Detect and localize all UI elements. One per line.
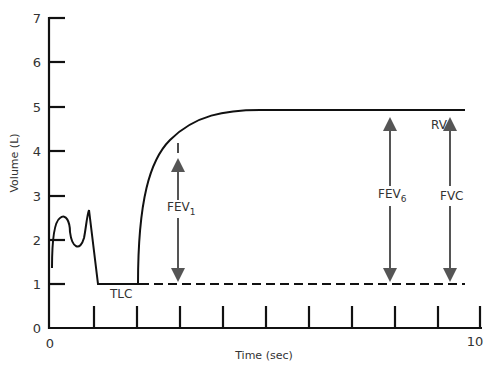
fev6-label: FEV6 — [378, 187, 407, 204]
tlc-label: TLC — [109, 287, 132, 301]
y-tick-2: 2 — [33, 233, 41, 248]
y-axis — [49, 17, 65, 329]
y-tick-0: 0 — [33, 321, 41, 336]
x-axis-title: Time (sec) — [234, 349, 293, 362]
y-axis-title: Volume (L) — [8, 133, 21, 192]
rv-label: RV — [431, 118, 448, 132]
fev1-label: FEV1 — [167, 200, 195, 217]
forced-expiration-curve — [138, 110, 465, 284]
tidal-breathing-curve — [52, 210, 140, 284]
x-tick-10: 10 — [467, 334, 484, 349]
x-axis — [48, 306, 482, 328]
x-tick-0: 0 — [46, 336, 54, 351]
fvc-label: FVC — [440, 189, 464, 203]
spirometry-chart: 0 1 2 3 4 5 6 7 0 10 Time (sec) Volume (… — [0, 0, 490, 368]
y-tick-labels: 0 1 2 3 4 5 6 7 — [33, 11, 41, 336]
y-tick-1: 1 — [33, 277, 41, 292]
y-tick-7: 7 — [33, 11, 41, 26]
y-tick-6: 6 — [33, 55, 41, 70]
y-tick-4: 4 — [33, 144, 41, 159]
y-tick-5: 5 — [33, 100, 41, 115]
y-tick-3: 3 — [33, 189, 41, 204]
